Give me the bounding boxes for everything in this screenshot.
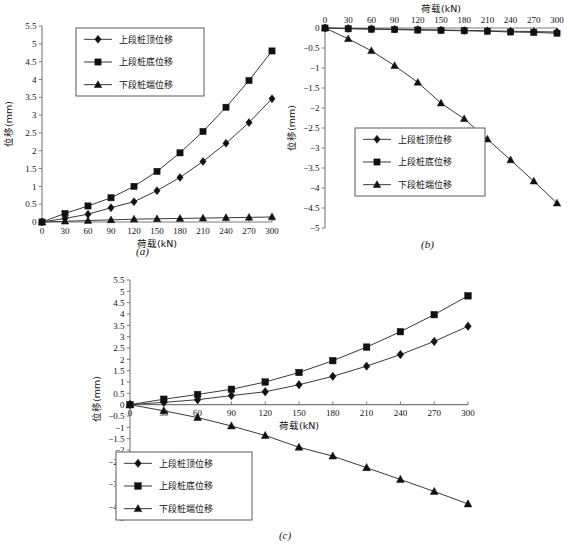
data-point-square — [269, 48, 275, 54]
data-point-square — [200, 128, 206, 134]
data-point-square — [431, 311, 438, 318]
legend-label: 上段桩底位移 — [159, 480, 213, 491]
data-point-triangle — [344, 35, 351, 42]
data-point-square — [154, 168, 160, 174]
svg-text:2.5: 2.5 — [25, 128, 37, 138]
data-point-square — [131, 183, 137, 189]
data-point-triangle — [176, 215, 183, 222]
svg-text:−0.5: −0.5 — [303, 43, 320, 53]
svg-text:270: 270 — [242, 226, 256, 236]
svg-text:30: 30 — [61, 226, 71, 236]
svg-text:150: 150 — [434, 15, 448, 25]
svg-text:90: 90 — [390, 15, 400, 25]
svg-text:4.5: 4.5 — [113, 298, 125, 308]
caption-b: (b) — [285, 238, 570, 250]
data-point-triangle — [130, 215, 137, 222]
data-point-square — [330, 357, 337, 364]
data-point-square — [461, 28, 467, 34]
series-2 — [127, 293, 472, 408]
data-point-square — [531, 29, 537, 35]
data-point-square — [508, 29, 514, 35]
data-point-square — [194, 391, 201, 398]
svg-text:150: 150 — [292, 408, 306, 418]
data-point-triangle — [222, 214, 229, 221]
data-point-diamond — [177, 173, 183, 181]
svg-text:300: 300 — [265, 226, 279, 236]
svg-text:1.5: 1.5 — [113, 366, 125, 376]
series-1 — [127, 322, 472, 409]
data-point-square — [465, 293, 472, 300]
svg-text:−5: −5 — [310, 223, 320, 233]
data-point-diamond — [363, 362, 370, 370]
data-point-triangle — [391, 62, 398, 69]
chart-a-svg: 00.511.522.533.544.555.50306090120150180… — [0, 0, 285, 268]
data-point-diamond — [108, 204, 114, 212]
data-point-square — [392, 27, 398, 33]
data-point-diamond — [330, 372, 337, 380]
svg-text:270: 270 — [527, 15, 541, 25]
svg-text:90: 90 — [227, 408, 237, 418]
svg-text:0: 0 — [315, 23, 320, 33]
legend-label: 上段桩底位移 — [398, 156, 452, 167]
data-point-square — [262, 379, 269, 386]
svg-text:0.5: 0.5 — [113, 389, 125, 399]
svg-text:30: 30 — [344, 15, 354, 25]
svg-text:60: 60 — [367, 15, 377, 25]
svg-text:3.5: 3.5 — [25, 92, 37, 102]
data-point-square — [397, 328, 404, 335]
data-point-triangle — [460, 115, 467, 122]
svg-text:荷载(kN): 荷载(kN) — [279, 420, 319, 431]
data-point-triangle — [414, 79, 421, 86]
svg-text:0: 0 — [128, 408, 133, 418]
data-point-triangle — [368, 47, 375, 54]
svg-text:5.5: 5.5 — [25, 21, 37, 31]
svg-text:210: 210 — [360, 408, 374, 418]
data-point-square — [223, 104, 229, 110]
svg-text:60: 60 — [84, 226, 94, 236]
legend-label: 下段桩端位移 — [398, 179, 452, 190]
legend-label: 上段桩底位移 — [119, 56, 173, 67]
svg-text:−3: −3 — [310, 143, 320, 153]
svg-text:3: 3 — [120, 332, 125, 342]
legend: 上段桩顶位移上段桩底位移下段桩端位移 — [355, 128, 485, 196]
svg-text:5: 5 — [32, 39, 37, 49]
data-point-square — [345, 26, 351, 32]
data-point-square — [374, 159, 380, 165]
svg-text:−3.5: −3.5 — [303, 163, 320, 173]
svg-text:0: 0 — [323, 15, 328, 25]
svg-text:270: 270 — [427, 408, 441, 418]
data-point-triangle — [268, 213, 275, 220]
svg-text:2: 2 — [32, 146, 37, 156]
series-line — [130, 326, 468, 404]
data-point-diamond — [131, 198, 137, 206]
svg-text:240: 240 — [219, 226, 233, 236]
series-1 — [39, 95, 275, 226]
svg-text:0: 0 — [120, 400, 125, 410]
svg-text:2.5: 2.5 — [113, 343, 125, 353]
svg-text:1.5: 1.5 — [25, 164, 37, 174]
svg-text:240: 240 — [504, 15, 518, 25]
svg-text:荷载(kN): 荷载(kN) — [421, 3, 461, 14]
data-point-diamond — [397, 350, 404, 358]
legend-label: 下段桩端位移 — [159, 503, 213, 514]
svg-text:1: 1 — [120, 377, 125, 387]
svg-text:4: 4 — [120, 309, 125, 319]
legend-label: 上段桩顶位移 — [119, 34, 173, 45]
chart-c-svg: 5.554.543.532.521.510.50−0.5−1−1.5−2−2.5… — [78, 266, 492, 553]
data-point-diamond — [154, 187, 160, 195]
legend-label: 上段桩顶位移 — [398, 134, 452, 145]
svg-text:210: 210 — [481, 15, 495, 25]
svg-text:−2.5: −2.5 — [303, 123, 320, 133]
svg-text:2: 2 — [120, 355, 125, 365]
data-point-square — [246, 77, 252, 83]
chart-panel-c: 5.554.543.532.521.510.50−0.5−1−1.5−2−2.5… — [78, 266, 492, 553]
svg-text:240: 240 — [394, 408, 408, 418]
svg-text:210: 210 — [196, 226, 210, 236]
svg-text:位移(mm): 位移(mm) — [286, 105, 297, 151]
svg-text:120: 120 — [411, 15, 425, 25]
svg-text:−1.5: −1.5 — [108, 434, 125, 444]
series-3 — [38, 213, 275, 225]
series-line — [42, 99, 272, 222]
data-point-diamond — [262, 388, 269, 396]
chart-b-svg: 0−0.5−1−1.5−2−2.5−3−3.5−4−4.5−5030609012… — [285, 0, 570, 268]
